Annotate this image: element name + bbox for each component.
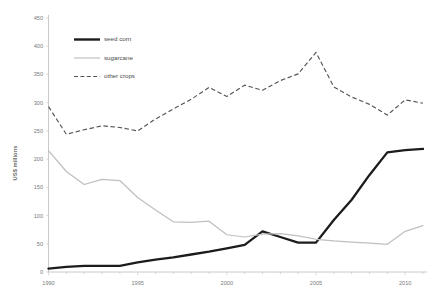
x-tick-label: 2005 — [310, 280, 322, 286]
legend-label-sugarcane: sugarcane — [104, 54, 133, 61]
legend-label-seed-corn: seed corn — [104, 35, 132, 42]
x-tick-label: 1990 — [42, 280, 54, 286]
y-tick-label: 250 — [34, 128, 43, 134]
series-line-seed-corn — [49, 149, 424, 269]
x-axis-tick-labels: 19901995200020052010 — [42, 280, 411, 286]
y-tick-label: 450 — [34, 15, 43, 21]
legend-label-other-crops: other crops — [104, 72, 135, 79]
chart-canvas: 050100150200250300350400450 199019952000… — [0, 0, 437, 301]
y-tick-label: 400 — [34, 43, 43, 49]
y-tick-label: 0 — [40, 269, 43, 275]
y-tick-label: 50 — [37, 241, 43, 247]
line-chart: 050100150200250300350400450 199019952000… — [0, 0, 437, 301]
x-tick-label: 2010 — [399, 280, 411, 286]
y-axis-tick-labels: 050100150200250300350400450 — [34, 15, 43, 275]
y-tick-label: 300 — [34, 100, 43, 106]
y-axis-title: US$ millions — [12, 146, 18, 181]
y-tick-label: 350 — [34, 71, 43, 77]
x-axis-tick-marks — [49, 272, 424, 275]
y-tick-label: 150 — [34, 184, 43, 190]
series-line-sugarcane — [49, 151, 424, 245]
chart-legend: seed cornsugarcaneother crops — [74, 35, 135, 79]
series-line-other-crops — [49, 52, 424, 134]
series-lines — [49, 52, 424, 268]
y-tick-label: 100 — [34, 213, 43, 219]
y-axis-title: US$ millions — [12, 146, 18, 181]
y-tick-label: 200 — [34, 156, 43, 162]
x-tick-label: 2000 — [221, 280, 233, 286]
x-tick-label: 1995 — [131, 280, 143, 286]
